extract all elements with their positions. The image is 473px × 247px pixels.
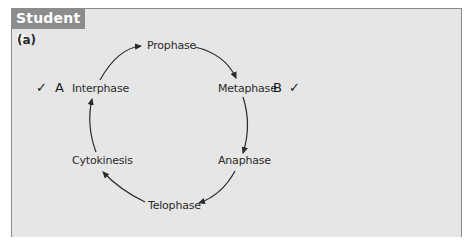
arrow-interphase-prophase [100, 46, 141, 80]
arrow-metaphase-anaphase [243, 97, 248, 153]
cycle-arrows [0, 0, 473, 247]
stage-cytokinesis: Cytokinesis [72, 154, 133, 167]
stage-telophase: Telophase [148, 199, 201, 212]
stage-prophase: Prophase [147, 39, 196, 52]
mark-b-letter: B [273, 80, 282, 95]
stage-metaphase: Metaphase [218, 82, 277, 95]
check-icon: ✓ [289, 80, 300, 95]
check-icon: ✓ [36, 80, 47, 95]
arrow-telophase-cytokinesis [103, 172, 145, 202]
stage-interphase: Interphase [72, 82, 129, 95]
arrow-anaphase-telophase [199, 171, 235, 203]
mark-b: B ✓ [273, 80, 300, 95]
mark-a: ✓ A [36, 80, 64, 95]
arrow-prophase-metaphase [195, 47, 236, 78]
mark-a-letter: A [55, 80, 64, 95]
arrow-cytokinesis-interphase [90, 99, 96, 152]
stage-anaphase: Anaphase [218, 154, 271, 167]
